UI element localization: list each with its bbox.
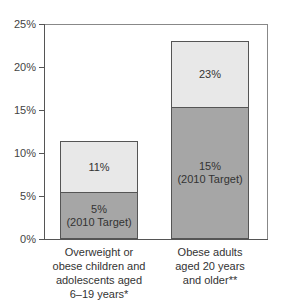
y-tick [39, 24, 44, 25]
y-tick [39, 153, 44, 154]
y-tick-label: 10% [0, 147, 36, 159]
category-label-children: Overweight or obese children and adolesc… [44, 245, 154, 301]
bar-segment-current: 11% [60, 141, 138, 193]
bar-value-label: 23% [199, 68, 221, 81]
bar-target-label: (2010 Target) [66, 216, 131, 229]
bar-value-label: 11% [88, 161, 109, 174]
bar-target-label: (2010 Target) [177, 173, 242, 186]
x-axis [39, 239, 268, 240]
y-tick-label: 0% [0, 233, 36, 245]
bar-value-label: 15% [199, 160, 221, 173]
bar-value-label: 5% [91, 203, 107, 216]
y-tick-label: 5% [0, 190, 36, 202]
y-tick [39, 196, 44, 197]
y-tick-label: 25% [0, 18, 36, 30]
bar-children: 11% 5% (2010 Target) [60, 141, 138, 239]
bar-segment-target: 5% (2010 Target) [60, 192, 138, 239]
y-tick-label: 15% [0, 104, 36, 116]
bar-segment-current: 23% [171, 41, 249, 108]
category-label-adults: Obese adults aged 20 years and older** [155, 245, 265, 287]
y-axis [44, 24, 45, 240]
y-tick-label: 20% [0, 61, 36, 73]
y-tick [39, 67, 44, 68]
y-tick [39, 110, 44, 111]
bar-segment-target: 15% (2010 Target) [171, 107, 249, 239]
bar-adults: 23% 15% (2010 Target) [171, 41, 249, 239]
